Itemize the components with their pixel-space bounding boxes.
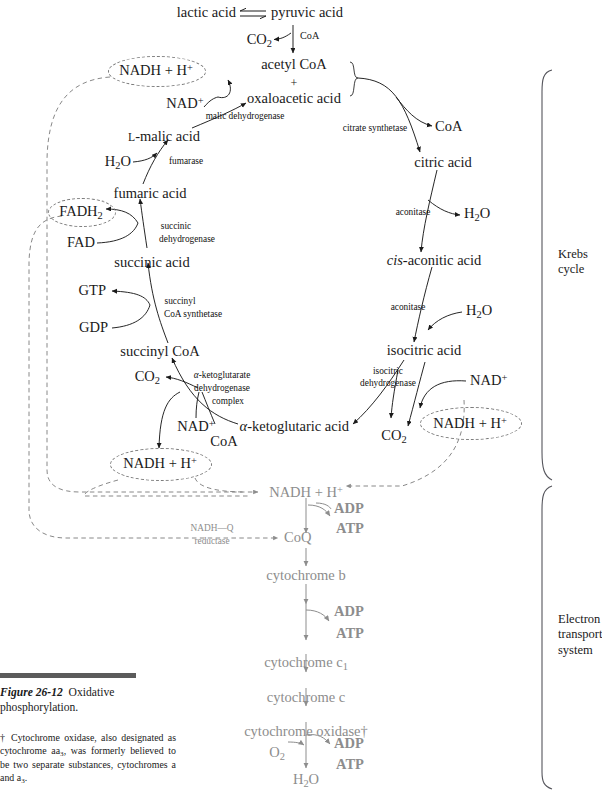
metabolite-fad: FAD [67,235,95,250]
etc-atp-2: ATP [336,626,364,641]
enzyme-ketoglutarate-dehydrogenase-line3: complex [212,397,244,406]
metabolite-citric-acid: citric acid [414,155,472,170]
metabolite-lactic-acid: lactic acid [177,5,236,20]
enzyme-ketoglutarate-dehydrogenase-line2: dehydrogenase [194,384,250,393]
metabolite-nad-malate: NAD+ [166,96,203,111]
metabolite-coa-citrate: CoA [435,119,462,134]
metabolite-h2o-aconitase-2: H2O [466,303,492,320]
metabolite-nadh-malate: NADH + H+ [119,63,193,78]
enzyme-fumarase: fumarase [169,157,203,166]
metabolite-fumaric-acid: fumaric acid [114,186,187,201]
etc-adp-1: ADP [334,501,364,516]
metabolite-isocitric-acid: isocitric acid [387,343,461,358]
enzyme-ketoglutarate-dehydrogenase-line1: α-ketoglutarate [194,371,251,380]
enzyme-nadh-q-reductase-line2: reductase [194,537,229,546]
metabolite-succinyl-coa: succinyl CoA [120,344,199,359]
etc-h2o-final: H2O [293,772,319,789]
etc-adp-2: ADP [334,604,364,619]
enzyme-succinic-dehydrogenase-line2: dehydrogenase [159,235,215,244]
caption-rule [0,673,136,678]
etc-o2: O2 [269,745,285,762]
enzyme-citrate-synthetase: citrate synthetase [343,124,407,133]
enzyme-aconitase-1: aconitase [396,208,431,217]
metabolite-gtp: GTP [79,283,106,298]
metabolite-h2o-fumarase: H2O [105,154,131,171]
bracket-label-krebs: Krebs cycle [558,247,588,278]
enzyme-isocitric-dehydrogenase-line2: dehydrogenase [360,379,416,388]
enzyme-isocitric-dehydrogenase-line1: isocitric [373,367,403,376]
metabolite-co2-isocitrate: CO2 [381,428,406,445]
enzyme-succinyl-coa-synthetase-line1: succinyl [165,297,196,306]
etc-cytochrome-b: cytochrome b [266,568,345,583]
figure-footnote: † Cytochrome oxidase, also designated as… [0,732,176,786]
bracket-label-electron-transport: Electron transport system [558,612,602,658]
enzyme-nadh-q-reductase-line1: NADH—Q [191,524,234,533]
metabolite-nad-isocitrate: NAD+ [470,373,507,388]
etc-adp-3: ADP [334,736,364,751]
figure-caption: Figure 26-12 Oxidative phosphorylation. [0,686,170,716]
metabolite-alpha-ketoglutaric-acid: α-ketoglutaric acid [240,419,349,434]
metabolite-oxaloacetic-acid: oxaloacetic acid [247,91,341,106]
etc-cytochrome-c1: cytochrome c1 [264,655,348,672]
enzyme-malic-dehydrogenase: malic dehydrogenase [206,112,285,121]
metabolite-h2o-aconitase-1: H2O [464,206,490,223]
plus-sign: + [291,77,298,89]
enzyme-succinic-dehydrogenase-line1: succinic [161,222,191,231]
etc-coq: CoQ [284,530,311,545]
metabolite-l-malic-acid: L-malic acid [128,129,200,144]
metabolite-pyruvic-acid: pyruvic acid [271,5,343,20]
metabolite-nad-ketoglutarate: NAD+ [177,419,214,434]
metabolite-cis-aconitic-acid: cis-aconitic acid [387,253,482,268]
metabolite-succinic-acid: succinic acid [114,255,189,270]
etc-atp-3: ATP [336,757,364,772]
figure-caption-title: Figure 26-12 [0,686,63,699]
metabolite-co2-ketoglutarate: CO2 [135,369,160,386]
etc-nadh: NADH + H+ [269,485,343,500]
metabolite-nadh-isocitrate: NADH + H+ [433,416,507,431]
metabolite-gdp: GDP [79,320,108,335]
etc-cytochrome-c: cytochrome c [267,690,346,705]
metabolite-fadh2: FADH2 [59,204,103,221]
metabolite-coa-pyruvate: CoA [300,31,319,41]
metabolite-co2-pyruvate: CO2 [247,32,272,49]
metabolite-acetyl-coa: acetyl CoA [261,57,327,72]
metabolite-nadh-ketoglutarate: NADH + H+ [123,456,197,471]
enzyme-succinyl-coa-synthetase-line2: CoA synthetase [164,310,222,319]
etc-atp-1: ATP [336,521,364,536]
metabolite-coa-ketoglutarate: CoA [210,434,237,449]
enzyme-aconitase-2: aconitase [391,303,426,312]
